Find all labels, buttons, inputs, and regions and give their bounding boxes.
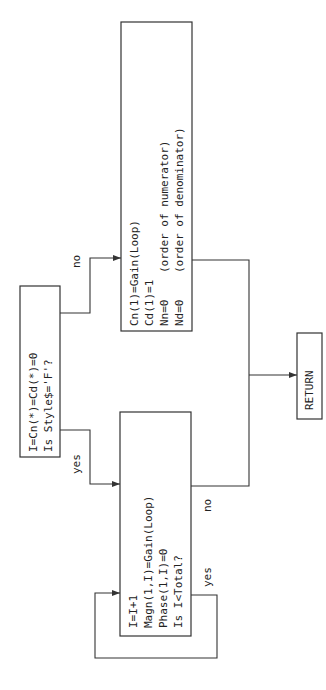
process-no-line-1: Cn(1)=Gain(Loop): [128, 220, 141, 326]
process-no-line-3: Nn=0 (order of numerator): [158, 141, 171, 326]
return-label: RETURN: [303, 370, 316, 410]
decision-line-2: Is Style$='F'?: [42, 359, 55, 452]
edge-merge: [191, 260, 249, 486]
process-yes-line-3: Phase(1,I)=0: [157, 549, 170, 628]
label-decision-no: no: [70, 255, 83, 268]
process-yes-line-1: I=I+1: [127, 595, 140, 628]
process-yes-line-2: Magn(1,I)=Gain(Loop): [142, 496, 155, 628]
label-loop-no: no: [201, 499, 214, 512]
process-yes-line-4: Is I<Total?: [172, 555, 185, 628]
process-no-line-2: Cd(1)=1: [143, 280, 156, 326]
process-no-line-4: Nd=0 (order of denominator): [173, 127, 186, 326]
decision-line-1: I=Cn(*)=Cd(*)=0: [27, 353, 40, 452]
edge-decision-yes: [60, 430, 120, 484]
label-loop-yes: yes: [201, 567, 214, 587]
flowchart: I=Cn(*)=Cd(*)=0 Is Style$='F'? Cn(1)=Gai…: [0, 0, 326, 690]
label-decision-yes: yes: [70, 454, 83, 474]
